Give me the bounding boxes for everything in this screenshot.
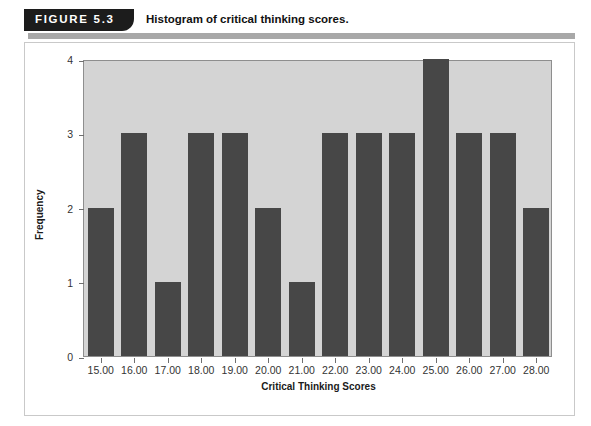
y-axis-tick-label: 2 — [43, 203, 73, 215]
histogram-bar — [523, 208, 549, 357]
y-axis-tick-label: 1 — [43, 277, 73, 289]
y-axis-tick-label: 0 — [43, 351, 73, 363]
x-axis-tick-mark — [201, 358, 202, 363]
histogram-bar — [322, 133, 348, 356]
header-divider-rule — [28, 33, 575, 39]
histogram-bar — [356, 133, 382, 356]
x-axis-tick-label: 28.00 — [513, 364, 559, 376]
x-axis-tick-mark — [335, 358, 336, 363]
histogram-bar — [222, 133, 248, 356]
histogram-bar — [188, 133, 214, 356]
histogram-plot-area: 01234Frequency15.0016.0017.0018.0019.002… — [83, 60, 552, 357]
y-axis-tick-label: 4 — [43, 54, 73, 66]
x-axis-tick-mark — [302, 358, 303, 363]
histogram-bar — [88, 208, 114, 357]
x-axis-tick-mark — [235, 358, 236, 363]
x-axis-tick-mark — [168, 358, 169, 363]
x-axis-tick-mark — [369, 358, 370, 363]
figure-caption: Histogram of critical thinking scores. — [146, 13, 349, 25]
plot-inner — [84, 61, 551, 356]
y-axis-tick-mark — [79, 61, 84, 62]
x-axis-tick-mark — [101, 358, 102, 363]
x-axis-tick-mark — [536, 358, 537, 363]
x-axis-title: Critical Thinking Scores — [84, 381, 553, 392]
histogram-bar — [121, 133, 147, 356]
y-axis-tick-mark — [79, 358, 84, 359]
histogram-bar — [456, 133, 482, 356]
histogram-bar — [490, 133, 516, 356]
x-axis-tick-mark — [503, 358, 504, 363]
figure-number-badge: FIGURE 5.3 — [24, 9, 134, 31]
y-axis-tick-mark — [79, 283, 84, 284]
x-axis-tick-mark — [134, 358, 135, 363]
histogram-bar — [423, 59, 449, 356]
histogram-bar — [155, 282, 181, 356]
figure-number-label: FIGURE 5.3 — [35, 13, 115, 25]
x-axis-tick-mark — [436, 358, 437, 363]
y-axis-tick-label: 3 — [43, 128, 73, 140]
figure-header: FIGURE 5.3 Histogram of critical thinkin… — [0, 0, 591, 40]
histogram-bar — [389, 133, 415, 356]
histogram-bar — [289, 282, 315, 356]
y-axis-tick-mark — [79, 209, 84, 210]
y-axis-title: Frequency — [34, 189, 45, 240]
x-axis-tick-mark — [402, 358, 403, 363]
x-axis-tick-mark — [469, 358, 470, 363]
x-axis-tick-mark — [268, 358, 269, 363]
y-axis-tick-mark — [79, 135, 84, 136]
histogram-bar — [255, 208, 281, 357]
